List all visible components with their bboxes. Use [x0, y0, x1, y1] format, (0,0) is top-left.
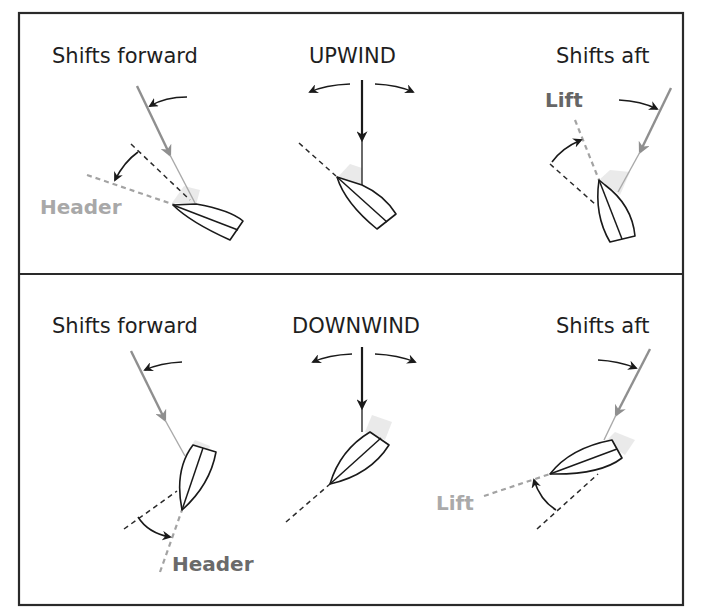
upwind-right-heading: Shifts aft [556, 44, 649, 68]
shifted-wind-arrow [616, 349, 650, 415]
original-course-line [550, 164, 595, 204]
shifted-wind-arrow [640, 88, 671, 152]
upwind-shift-aft-group: Lift [545, 88, 671, 242]
upwind-left-heading: Shifts forward [52, 44, 198, 68]
wind-shift-diagram: Shifts forward UPWIND Shifts aft Header [0, 0, 704, 614]
header-label: Header [172, 552, 254, 576]
shift-right-arrow-icon [375, 84, 413, 92]
shift-direction-arrow-icon [619, 100, 657, 109]
upwind-center-group [299, 80, 413, 229]
upwind-shift-forward-group: Header [40, 86, 243, 240]
downwind-center-group [286, 347, 415, 522]
downwind-shift-forward-group: Header [124, 351, 254, 576]
shift-left-arrow-icon [310, 84, 350, 92]
course-line [299, 143, 336, 176]
shift-direction-arrow-icon [598, 360, 636, 368]
header-angle-arrow-icon [138, 517, 170, 537]
header-angle-arrow-icon [115, 152, 138, 180]
shift-left-arrow-icon [313, 354, 352, 362]
course-line [286, 484, 330, 522]
shifted-wind-arrow [131, 351, 165, 420]
lift-angle-arrow-icon [534, 480, 556, 510]
downwind-left-heading: Shifts forward [52, 314, 198, 338]
header-label: Header [40, 195, 122, 219]
lift-label: Lift [436, 491, 474, 515]
lift-label: Lift [545, 88, 583, 112]
boat-icon [330, 432, 389, 484]
shift-direction-arrow-icon [145, 362, 182, 370]
original-course-line [124, 491, 177, 529]
boat-icon [337, 177, 396, 229]
panel-upwind: Shifts forward UPWIND Shifts aft Header [40, 44, 671, 242]
outer-frame [19, 13, 683, 605]
shift-direction-arrow-icon [150, 97, 187, 106]
panel-downwind: Shifts forward DOWNWIND Shifts aft Heade… [52, 314, 650, 576]
new-course-line [575, 120, 599, 180]
shift-right-arrow-icon [375, 354, 415, 362]
lift-angle-arrow-icon [552, 140, 581, 162]
downwind-title: DOWNWIND [292, 314, 420, 338]
downwind-right-heading: Shifts aft [556, 314, 649, 338]
boat-icon [550, 440, 622, 474]
upwind-title: UPWIND [309, 44, 396, 68]
boat-icon [173, 204, 243, 240]
apparent-wind-line [165, 420, 185, 456]
shifted-wind-arrow [137, 86, 170, 155]
downwind-shift-aft-group: Lift [436, 349, 650, 529]
